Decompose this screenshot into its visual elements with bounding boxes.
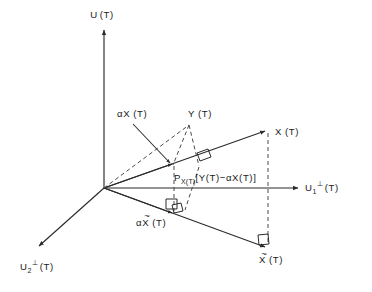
- label-projection-formula: PX(T)[Y(T)−αX(T)]: [174, 172, 256, 186]
- axis-u2-perp-lower-left: [39, 188, 104, 246]
- tilde-accent-alpha-x-tilde: ~: [144, 210, 150, 221]
- label-axis-u2-perp: U2⊥(T): [20, 259, 54, 274]
- figure-container: U(T) U1⊥(T) U2⊥(T) X(T) Y(T) αX(T) αX(T)…: [0, 0, 372, 292]
- label-vector-alpha-x-tilde: αX(T): [136, 217, 166, 228]
- label-vector-x-tilde-group: X(T) ~: [259, 248, 283, 265]
- right-angle-marker-projection: [197, 149, 211, 161]
- label-vector-alpha-x-tilde-group: αX(T) ~: [136, 210, 166, 228]
- vector-alpha-x-tilde: [104, 188, 172, 213]
- vector-projection-diagram: U(T) U1⊥(T) U2⊥(T) X(T) Y(T) αX(T) αX(T)…: [0, 0, 372, 292]
- leader-alpha-x-label: [133, 124, 170, 163]
- label-axis-u1-perp: U1⊥(T): [305, 180, 339, 195]
- label-vector-x: X(T): [275, 126, 299, 137]
- right-angle-marker-x-tilde: [258, 234, 269, 245]
- label-vector-alpha-x: αX(T): [117, 108, 147, 119]
- label-axis-u: U(T): [90, 9, 114, 20]
- tilde-accent-x-tilde: ~: [261, 248, 267, 259]
- vector-alpha-x: [104, 164, 172, 188]
- label-vector-y: Y(T): [188, 108, 212, 119]
- dashed-y-to-projection-foot: [189, 125, 199, 166]
